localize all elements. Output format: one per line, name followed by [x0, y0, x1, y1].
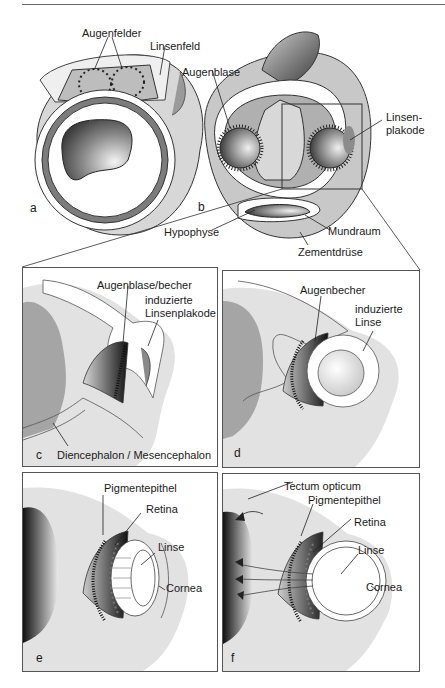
label-e-retina: Retina: [146, 503, 178, 516]
label-f-tectum: Tectum opticum: [284, 480, 361, 493]
label-c-induzierte: induzierte: [145, 294, 193, 307]
label-zementdruese: Zementdrüse: [298, 246, 363, 259]
label-e-pigmentepithel: Pigmentepithel: [104, 482, 177, 495]
panel-e: [22, 472, 218, 672]
label-c-augenblase-becher: Augenblase/becher: [97, 279, 192, 292]
panel-d-illustration: [223, 271, 420, 468]
label-mundraum: Mundraum: [328, 225, 381, 238]
panel-d: [222, 270, 420, 468]
label-f-cornea: Cornea: [366, 581, 402, 594]
label-c-diencephalon: Diencephalon / Mesencephalon: [57, 449, 211, 462]
label-d-linse: Linse: [355, 316, 381, 329]
panel-letter-a: a: [30, 202, 37, 215]
label-d-augenbecher: Augenbecher: [300, 284, 365, 297]
panel-letter-c: c: [36, 449, 42, 462]
label-augenfelder: Augenfelder: [82, 27, 141, 40]
label-linsenplakode-2: plakode: [386, 124, 425, 137]
panel-letter-e: e: [36, 652, 43, 665]
panel-letter-d: d: [234, 447, 241, 460]
label-e-linse: Linse: [158, 541, 184, 554]
label-linsenplakode-1: Linsen-: [386, 111, 422, 124]
label-linsenfeld: Linsenfeld: [150, 40, 200, 53]
label-hypophyse: Hypophyse: [164, 226, 219, 239]
label-f-pigmentepithel: Pigmentepithel: [308, 494, 381, 507]
label-f-retina: Retina: [354, 516, 386, 529]
panel-letter-b: b: [198, 201, 205, 214]
panel-e-illustration: [23, 473, 218, 672]
label-c-linsenplakode: Linsenplakode: [145, 307, 216, 320]
panel-letter-f: f: [231, 652, 234, 665]
label-d-induzierte: induzierte: [355, 303, 403, 316]
label-augenblase: Augenblase: [182, 66, 240, 79]
panel-a-embryo: [35, 37, 203, 235]
label-f-linse: Linse: [358, 544, 384, 557]
label-e-cornea: Cornea: [166, 582, 202, 595]
